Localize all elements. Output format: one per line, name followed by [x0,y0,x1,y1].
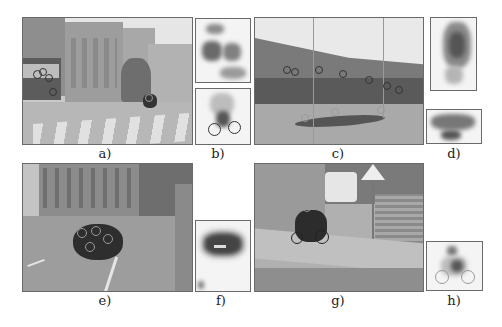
detection-circle [365,76,373,84]
panel-label-f: f) [206,293,236,308]
panel-label-c: c) [323,146,353,161]
panel-e-image [22,163,193,292]
detection-circle [395,86,403,94]
detection-circle [377,106,385,114]
panel-label-e: e) [90,293,120,308]
panel-label-b: b) [203,146,233,161]
windows [71,38,117,88]
detection-circle [291,232,303,244]
detection-circle [103,234,113,244]
panel-c-image [254,17,424,145]
detection-circle [291,68,299,76]
panel-label-g: g) [323,293,353,308]
plate [214,245,226,248]
building-left [23,164,39,216]
panel-d-top-map [430,17,477,91]
pole [383,18,384,118]
windows [43,168,135,208]
panel-d-bottom-map [426,109,482,144]
detection-circle [145,94,153,102]
smudge [220,67,246,79]
wheel [228,121,241,134]
smudge [223,43,241,61]
warning-sign [361,164,385,180]
detection-circle [85,242,95,252]
panel-label-h: h) [439,293,469,308]
smudge [431,114,475,130]
smudge [449,32,465,58]
smudge [451,260,463,272]
smudge [447,246,457,256]
detection-circle [315,66,323,74]
detection-circle [331,108,339,116]
detection-circle [45,74,53,82]
panel-label-d: d) [439,146,469,161]
van [325,172,357,202]
detection-circle [383,82,391,90]
panel-g-image [254,163,424,292]
panel-f-map [195,220,251,292]
wheel [208,123,221,136]
pole [313,18,314,145]
panel-label-a: a) [90,146,120,161]
panel-b-bottom-map [195,88,251,145]
detection-circle [315,230,329,244]
building-right [148,44,193,102]
smudge [445,66,463,84]
panel-b-top-map [195,18,251,83]
smudge [198,281,204,289]
car-back [204,233,242,255]
wheel [461,270,475,284]
detection-circle [91,226,101,236]
detection-circle [283,66,291,74]
panel-a-image [22,17,193,145]
stairs [375,194,424,244]
detection-circle [301,114,309,122]
pillar [175,184,193,292]
wheel [435,270,449,284]
road [255,268,424,292]
detection-circle [303,204,311,212]
panel-h-map [426,241,483,291]
detection-circle [339,70,347,78]
detection-circle [49,88,57,96]
smudge [206,24,224,34]
smudge [202,41,222,61]
smudge [441,130,461,140]
detection-circle [77,228,87,238]
